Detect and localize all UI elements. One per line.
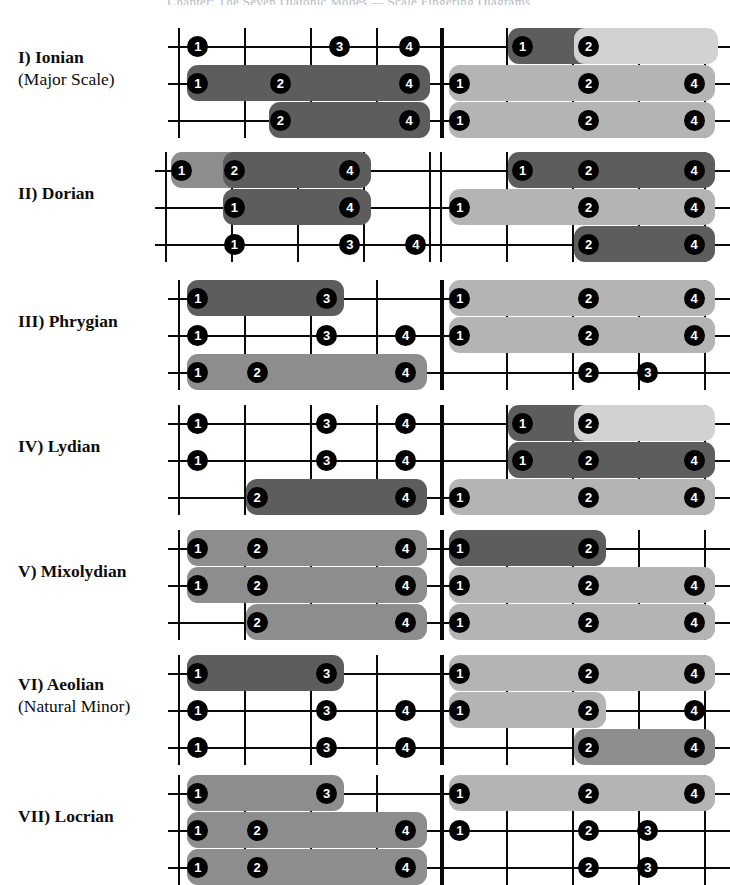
fretboard-diagram-left: 13134134 (168, 655, 468, 765)
finger-dot: 1 (187, 413, 208, 434)
fret-line (440, 280, 442, 390)
finger-dot: 1 (449, 820, 470, 841)
finger-dot: 2 (578, 700, 599, 721)
fret-line (440, 28, 442, 138)
mode-label-text: III) Phrygian (18, 311, 118, 331)
finger-dot: 4 (684, 612, 705, 633)
finger-dot: 1 (449, 487, 470, 508)
finger-dot: 4 (684, 783, 705, 804)
finger-dot: 3 (339, 234, 360, 255)
fretboard-diagram-right: 12412424 (430, 655, 730, 765)
finger-dot: 4 (399, 36, 420, 57)
finger-dot: 2 (578, 325, 599, 346)
finger-dot: 2 (578, 110, 599, 131)
mode-row-aeolian: VI) Aeolian(Natural Minor)13134134124124… (0, 655, 698, 765)
finger-dot: 2 (247, 612, 268, 633)
finger-dot: 2 (578, 197, 599, 218)
finger-dot: 2 (247, 362, 268, 383)
fret-line (440, 775, 442, 885)
finger-dot: 2 (578, 538, 599, 559)
finger-dot: 1 (224, 234, 245, 255)
fretboard-diagram-left: 13124124 (168, 775, 468, 885)
finger-dot: 2 (578, 575, 599, 596)
finger-dot: 1 (187, 663, 208, 684)
fretboard-diagram-right: 12124124 (430, 28, 730, 138)
finger-dot: 4 (684, 110, 705, 131)
finger-dot: 3 (316, 413, 337, 434)
finger-dot: 4 (395, 413, 416, 434)
finger-dot: 2 (578, 857, 599, 878)
finger-dot: 1 (449, 575, 470, 596)
finger-dot: 3 (316, 737, 337, 758)
fret-line (440, 405, 442, 515)
finger-dot: 2 (578, 413, 599, 434)
fret-line (440, 655, 442, 765)
finger-dot: 2 (247, 575, 268, 596)
finger-dot: 3 (637, 362, 658, 383)
finger-dot: 4 (339, 197, 360, 218)
finger-dot: 1 (187, 575, 208, 596)
mode-label: III) Phrygian (18, 310, 118, 332)
fret-line (178, 530, 180, 640)
finger-dot: 4 (399, 110, 420, 131)
fretboard-diagram-right: 12412323 (430, 775, 730, 885)
finger-dot: 2 (578, 362, 599, 383)
finger-bar (187, 849, 427, 885)
finger-dot: 4 (399, 73, 420, 94)
fret-line (178, 28, 180, 138)
finger-dot: 4 (395, 857, 416, 878)
finger-dot: 4 (684, 325, 705, 346)
mode-row-lydian: IV) Lydian1341342412124124 (0, 405, 698, 515)
finger-dot: 3 (316, 783, 337, 804)
finger-dot: 4 (684, 487, 705, 508)
fretboard-diagram-left: 13134124 (168, 280, 468, 390)
finger-dot: 4 (684, 737, 705, 758)
finger-dot: 1 (187, 783, 208, 804)
fretboard-diagram-right: 12412424 (430, 152, 730, 262)
finger-dot: 2 (247, 857, 268, 878)
fretboard-diagram-left: 13412424 (168, 28, 468, 138)
finger-dot: 4 (395, 820, 416, 841)
mode-label-text: V) Mixolydian (18, 561, 126, 581)
finger-dot: 1 (512, 36, 533, 57)
fret-line (178, 775, 180, 885)
finger-dot: 2 (578, 73, 599, 94)
finger-dot: 4 (684, 700, 705, 721)
finger-dot: 4 (395, 487, 416, 508)
mode-label-text: II) Dorian (18, 183, 94, 203)
finger-dot: 1 (187, 820, 208, 841)
mode-label-text: VII) Locrian (18, 806, 114, 826)
mode-label-text: VI) Aeolian (18, 674, 104, 694)
fret-line (440, 530, 442, 640)
mode-label: V) Mixolydian (18, 560, 126, 582)
finger-dot: 1 (449, 663, 470, 684)
finger-dot: 4 (339, 160, 360, 181)
finger-dot: 3 (316, 663, 337, 684)
finger-dot: 3 (637, 857, 658, 878)
finger-dot: 2 (578, 288, 599, 309)
finger-dot: 1 (449, 110, 470, 131)
finger-dot: 1 (187, 737, 208, 758)
finger-dot: 1 (449, 538, 470, 559)
finger-dot: 1 (187, 288, 208, 309)
fret-line (165, 152, 167, 262)
finger-dot: 4 (684, 234, 705, 255)
finger-dot: 4 (405, 234, 426, 255)
finger-dot: 2 (578, 487, 599, 508)
finger-dot: 2 (224, 160, 245, 181)
finger-dot: 1 (449, 612, 470, 633)
mode-label-text: I) Ionian (18, 47, 84, 67)
running-header: Chapter: The Seven Diatonic Modes — Scal… (0, 0, 698, 5)
finger-dot: 1 (187, 700, 208, 721)
finger-dot: 2 (578, 612, 599, 633)
finger-dot: 2 (578, 160, 599, 181)
finger-bar (187, 812, 427, 848)
finger-dot: 1 (449, 783, 470, 804)
finger-dot: 4 (395, 575, 416, 596)
finger-dot: 3 (316, 288, 337, 309)
finger-dot: 1 (187, 36, 208, 57)
fret-line (376, 655, 378, 765)
finger-dot: 1 (187, 538, 208, 559)
finger-dot: 3 (316, 700, 337, 721)
